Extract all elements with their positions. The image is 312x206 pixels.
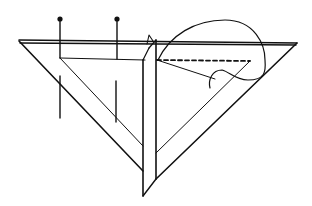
pin-right (114, 16, 119, 122)
left-outer-edge (19, 41, 143, 171)
center-panel (143, 35, 156, 196)
pin-left (57, 16, 62, 118)
dashed-line (157, 60, 250, 61)
left-inner-frame (60, 58, 145, 146)
right-outer-edge (156, 43, 297, 179)
diagram-canvas (0, 0, 312, 206)
triangle-frames-drawing (0, 0, 312, 206)
diagonal-string (157, 60, 215, 79)
